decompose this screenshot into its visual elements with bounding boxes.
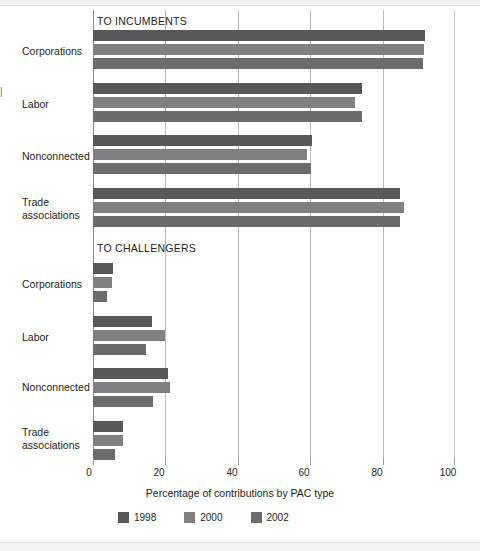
section-heading-challengers: TO CHALLENGERS: [97, 242, 196, 254]
bar-to-incumbents-corporations-2002: [93, 58, 423, 69]
bar-to-incumbents-trade-associations-2002: [93, 216, 400, 227]
tick-mark-80: [383, 458, 384, 465]
bar-to-challengers-trade-associations-2000: [93, 435, 123, 446]
category-label-challengers-trade-associations: Trade associations: [22, 426, 80, 451]
bar-to-incumbents-labor-1998: [93, 83, 362, 94]
bar-to-incumbents-trade-associations-1998: [93, 188, 400, 199]
bar-to-challengers-corporations-1998: [93, 263, 113, 274]
category-label-incumbents-labor: Labor: [22, 98, 49, 111]
bar-to-challengers-nonconnected-2000: [93, 382, 170, 393]
bar-to-challengers-corporations-2000: [93, 277, 112, 288]
legend-item-2002[interactable]: 2002: [251, 512, 289, 523]
bar-to-challengers-nonconnected-2002: [93, 396, 153, 407]
edge-artifact: |: [0, 86, 6, 97]
chart-legend: 1998 2000 2002: [118, 512, 289, 523]
bar-to-challengers-labor-2000: [93, 330, 165, 341]
bar-to-challengers-corporations-2002: [93, 291, 107, 302]
tick-mark-60: [310, 458, 311, 465]
category-label-challengers-nonconnected: Nonconnected: [22, 381, 90, 394]
bar-to-challengers-labor-1998: [93, 316, 152, 327]
legend-label-1998: 1998: [134, 512, 156, 523]
category-label-challengers-labor: Labor: [22, 331, 49, 344]
bar-to-incumbents-nonconnected-2000: [93, 149, 307, 160]
tick-label-0: 0: [86, 467, 92, 478]
tick-label-80: 80: [371, 467, 382, 478]
x-axis: 0 20 40 60 80 100: [93, 465, 455, 466]
x-axis-title: Percentage of contributions by PAC type: [0, 487, 480, 499]
bar-to-incumbents-nonconnected-2002: [93, 163, 311, 174]
gridline-60: [310, 10, 311, 465]
gridline-40: [238, 10, 239, 465]
legend-item-2000[interactable]: 2000: [184, 512, 222, 523]
bar-to-incumbents-corporations-2000: [93, 44, 424, 55]
tick-label-40: 40: [226, 467, 237, 478]
legend-label-2002: 2002: [267, 512, 289, 523]
tick-mark-100: [454, 458, 455, 465]
bottom-divider: [0, 542, 480, 551]
legend-swatch-1998: [118, 512, 129, 523]
bar-to-challengers-trade-associations-2002: [93, 449, 115, 460]
tick-label-20: 20: [153, 467, 164, 478]
gridline-20: [165, 10, 166, 465]
category-label-incumbents-trade-associations: Trade associations: [22, 196, 80, 221]
category-label-incumbents-nonconnected: Nonconnected: [22, 150, 90, 163]
bar-to-incumbents-nonconnected-1998: [93, 135, 312, 146]
tick-label-100: 100: [440, 467, 457, 478]
gridline-100: [454, 10, 455, 465]
bar-to-incumbents-corporations-1998: [93, 30, 425, 41]
tick-mark-0: [93, 458, 94, 465]
chart-page: TO INCUMBENTS TO CHALLENGERS | Corporati…: [0, 0, 480, 551]
gridline-80: [383, 10, 384, 465]
section-heading-incumbents: TO INCUMBENTS: [97, 15, 187, 27]
legend-item-1998[interactable]: 1998: [118, 512, 156, 523]
top-divider: [0, 0, 480, 6]
legend-swatch-2002: [251, 512, 262, 523]
tick-label-60: 60: [298, 467, 309, 478]
category-label-incumbents-corporations: Corporations: [22, 45, 82, 58]
bar-to-incumbents-labor-2000: [93, 97, 355, 108]
bar-to-challengers-nonconnected-1998: [93, 368, 168, 379]
tick-mark-40: [238, 458, 239, 465]
tick-mark-20: [165, 458, 166, 465]
bar-to-challengers-trade-associations-1998: [93, 421, 123, 432]
bar-to-incumbents-labor-2002: [93, 111, 362, 122]
legend-label-2000: 2000: [200, 512, 222, 523]
bar-to-incumbents-trade-associations-2000: [93, 202, 404, 213]
category-label-challengers-corporations: Corporations: [22, 278, 82, 291]
bar-to-challengers-labor-2002: [93, 344, 146, 355]
legend-swatch-2000: [184, 512, 195, 523]
